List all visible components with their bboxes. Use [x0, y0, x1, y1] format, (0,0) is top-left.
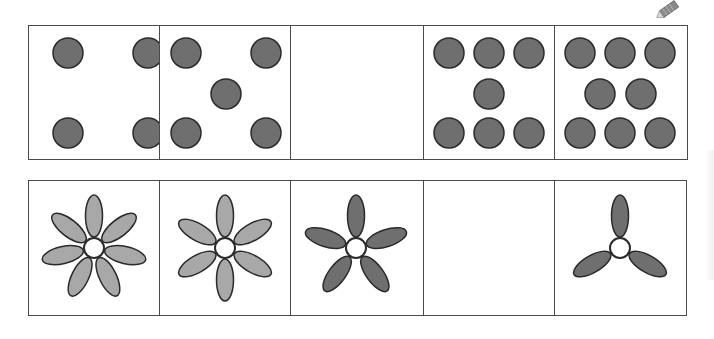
dot [605, 118, 635, 148]
dot [474, 38, 504, 68]
petal [348, 195, 365, 237]
petal [318, 252, 356, 296]
dot [514, 118, 544, 148]
dot [434, 38, 464, 68]
dot [626, 79, 656, 109]
dot-pattern-row [28, 25, 688, 160]
petal [303, 224, 348, 253]
page-edge-shadow [704, 150, 714, 280]
dot [251, 38, 281, 68]
petal [47, 208, 90, 247]
flower-center [215, 238, 235, 258]
dot-cell-4 [424, 26, 555, 159]
flower-center [84, 238, 104, 258]
dot [565, 118, 595, 148]
dot [133, 118, 159, 148]
pencil-icon [654, 0, 684, 18]
dot [645, 118, 675, 148]
flower-3-petals [555, 181, 686, 315]
dot [474, 118, 504, 148]
petal [175, 214, 220, 250]
flower-6-petals [160, 181, 290, 315]
dot [605, 38, 635, 68]
petal [175, 246, 220, 282]
dots-5 [160, 26, 290, 159]
dot [434, 118, 464, 148]
dot [53, 38, 83, 68]
petal [625, 246, 670, 282]
dot [645, 38, 675, 68]
dots-empty [291, 26, 423, 159]
dot-cell-1 [29, 26, 160, 159]
petal [217, 259, 234, 301]
flower-cell-4-missing[interactable] [424, 181, 555, 315]
dots-8 [555, 26, 686, 159]
dot [211, 79, 241, 109]
petal [230, 214, 275, 250]
petal [612, 195, 629, 237]
dots-4 [29, 26, 159, 159]
petal [86, 195, 103, 237]
flower-7-petals [29, 181, 159, 315]
petal [217, 195, 234, 237]
petal [230, 246, 275, 282]
flower-cell-5 [555, 181, 686, 315]
flower-cell-1 [29, 181, 160, 315]
flower-center [610, 238, 630, 258]
dots-7 [424, 26, 554, 159]
dot [171, 118, 201, 148]
petal [356, 252, 394, 296]
flower-5-petals [291, 181, 423, 315]
dot [514, 38, 544, 68]
dot [171, 38, 201, 68]
dot [585, 79, 615, 109]
dot [474, 79, 504, 109]
dot-cell-3-missing[interactable] [291, 26, 424, 159]
petal [570, 246, 615, 282]
dot-cell-5 [555, 26, 686, 159]
flower-empty [424, 181, 554, 315]
petal [364, 224, 409, 253]
flower-cell-3 [291, 181, 424, 315]
flower-pattern-row [28, 180, 687, 316]
dot [53, 118, 83, 148]
petal [97, 208, 140, 247]
dot [565, 38, 595, 68]
flower-cell-2 [160, 181, 291, 315]
dot [133, 38, 159, 68]
dot [251, 118, 281, 148]
dot-cell-2 [160, 26, 291, 159]
flower-center [346, 238, 366, 258]
